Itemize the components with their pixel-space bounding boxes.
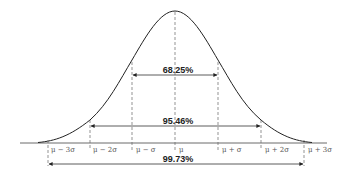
range-label-3-sigma: 99.73%	[163, 154, 194, 164]
tick-label-minus-1-sigma: μ − σ	[136, 146, 156, 154]
tick-label-minus-3-sigma: μ − 3σ	[51, 146, 75, 154]
tick-label-minus-2-sigma: μ − 2σ	[93, 146, 117, 154]
normal-distribution-diagram: 68.25% 95.46% 99.73% μ − 3σ μ − 2σ μ − σ…	[0, 0, 345, 176]
tick-label-plus-2-sigma: μ + 2σ	[265, 146, 289, 154]
range-label-2-sigma: 95.46%	[163, 116, 194, 126]
range-label-1-sigma: 68.25%	[163, 65, 194, 75]
tick-label-plus-1-sigma: μ + σ	[222, 146, 242, 154]
tick-label-mean: μ	[179, 146, 184, 154]
tick-label-plus-3-sigma: μ + 3σ	[308, 146, 332, 154]
